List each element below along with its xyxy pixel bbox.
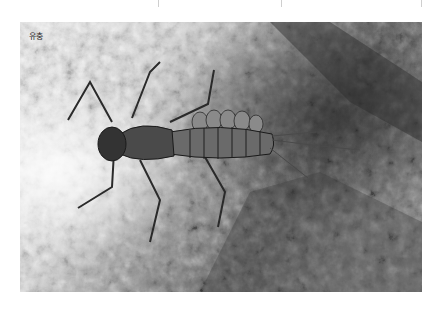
- figure-label: 유충: [29, 32, 43, 41]
- top-table-border-strip: [0, 0, 439, 8]
- column-separator: [158, 0, 159, 7]
- larva-photo: 유충: [20, 22, 422, 292]
- larva-photo-image: 유충: [20, 22, 422, 292]
- column-separator: [421, 0, 422, 7]
- column-separator: [281, 0, 282, 7]
